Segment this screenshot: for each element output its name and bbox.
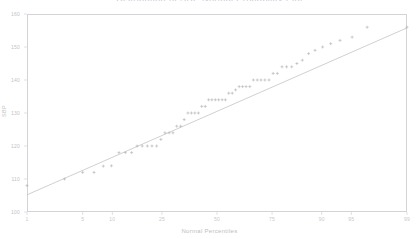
x-tick-label: 10: [102, 217, 122, 222]
normal-probability-plot-figure: Distribution of SBP Normal Probability P…: [0, 0, 419, 239]
x-tick-label: 50: [207, 217, 227, 222]
plot-title: Distribution of SBP Normal Probability P…: [0, 0, 419, 1]
x-tick-label: 5: [73, 217, 93, 222]
x-tick-label: 25: [152, 217, 172, 222]
y-tick-label: 130: [0, 111, 20, 116]
y-tick-label: 120: [0, 144, 20, 149]
y-tick-label: 140: [0, 78, 20, 83]
y-tick-label: 100: [0, 210, 20, 215]
x-tick-label: 75: [262, 217, 282, 222]
x-tick-label: 95: [341, 217, 361, 222]
x-tick-label: 90: [312, 217, 332, 222]
x-axis-title: Normal Percentiles: [0, 228, 419, 234]
y-tick-label: 150: [0, 45, 20, 50]
x-tick-label: 1: [17, 217, 37, 222]
x-tick-label: 99: [397, 217, 417, 222]
plot-area: [27, 14, 407, 212]
y-tick-label: 160: [0, 12, 20, 17]
y-tick-label: 110: [0, 177, 20, 182]
